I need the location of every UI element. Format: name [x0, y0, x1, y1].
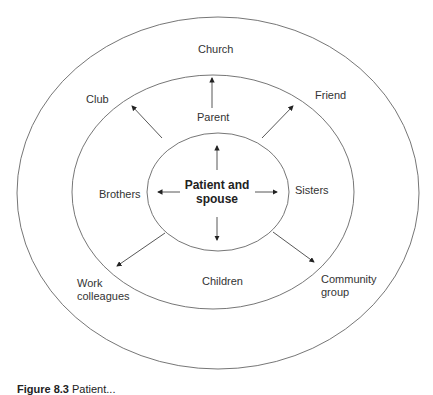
figure-caption-text: Patient... — [72, 383, 115, 395]
label-parent: Parent — [197, 111, 229, 124]
label-community-line1: Community — [321, 273, 377, 286]
figure-caption: Figure 8.3 Patient... — [17, 383, 115, 395]
label-patient-and-spouse: Patient and spouse — [167, 178, 267, 206]
arrow-down-left — [117, 233, 165, 266]
label-work-line1: Work — [77, 277, 130, 290]
label-community-line2: group — [321, 286, 377, 299]
label-friend: Friend — [315, 89, 346, 102]
center-line1: Patient and — [167, 178, 267, 192]
label-work-colleagues: Work colleagues — [77, 277, 130, 303]
arrow-down-right — [273, 232, 314, 262]
label-children: Children — [202, 275, 243, 288]
label-sisters: Sisters — [295, 184, 329, 197]
arrow-up-right — [262, 106, 293, 138]
label-club: Club — [86, 93, 109, 106]
arrow-up-left — [132, 106, 162, 138]
label-church: Church — [198, 43, 233, 56]
label-brothers: Brothers — [99, 188, 141, 201]
figure-number: Figure 8.3 — [17, 383, 69, 395]
center-line2: spouse — [167, 192, 267, 206]
label-work-line2: colleagues — [77, 290, 130, 303]
label-community-group: Community group — [321, 273, 377, 299]
